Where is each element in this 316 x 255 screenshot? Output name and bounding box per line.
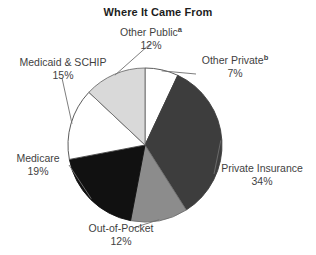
slice-label-other-private-text: Other Private (202, 54, 264, 66)
slice-label-other-private: Other Privateb 7% (190, 54, 280, 79)
slice-label-private-insurance-text: Private Insurance (221, 162, 303, 174)
footnote-marker-b: b (264, 53, 269, 62)
slice-value-private-insurance: 34% (212, 175, 312, 188)
slice-label-out-of-pocket-text: Out-of-Pocket (89, 222, 154, 234)
pie-slice-group (68, 68, 222, 222)
slice-label-medicaid-schip: Medicaid & SCHIP 15% (8, 56, 118, 81)
slice-value-medicaid-schip: 15% (8, 69, 118, 82)
slice-label-medicare-text: Medicare (16, 152, 59, 164)
slice-label-other-public: Other Publica 12% (108, 26, 194, 51)
slice-value-medicare: 19% (2, 165, 74, 178)
slice-label-medicare: Medicare 19% (2, 152, 74, 177)
slice-value-other-private: 7% (190, 67, 280, 80)
pie-chart-figure: Where It Came From Other Publica 12% Oth… (0, 0, 316, 255)
slice-label-other-public-text: Other Public (120, 26, 178, 38)
slice-label-medicaid-schip-text: Medicaid & SCHIP (20, 56, 107, 68)
leader-line-medicaid-schip (62, 78, 72, 124)
slice-label-private-insurance: Private Insurance 34% (212, 162, 312, 187)
footnote-marker-a: a (178, 25, 182, 34)
slice-value-out-of-pocket: 12% (66, 235, 176, 248)
slice-label-out-of-pocket: Out-of-Pocket 12% (66, 222, 176, 247)
slice-value-other-public: 12% (108, 39, 194, 52)
